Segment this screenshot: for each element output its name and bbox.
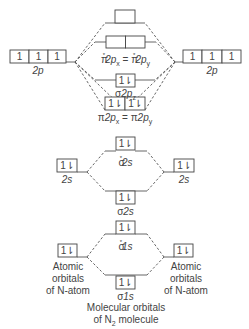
left-atomic-orbitals-caption: Atomic orbitals of N-atom — [46, 261, 90, 297]
electron-pair-arrows: 1⇂ — [119, 138, 133, 149]
electron-pair-arrows: 1⇂ — [119, 192, 133, 203]
molecular-orbitals-caption: Molecular orbitals of N2 molecule — [87, 302, 165, 329]
pi-star-2px-box — [106, 36, 126, 48]
sigma-1s-label: σ1s — [117, 291, 134, 302]
electron-pair-arrows: 1⇂ — [177, 160, 191, 171]
pi-star-2py-box — [126, 36, 146, 48]
sigma-star-2s-label: σ*2s — [118, 153, 132, 168]
sigma-star-1s-label: σ*1s — [118, 237, 132, 252]
electron-up-arrow: 1 — [17, 51, 23, 62]
electron-pair-arrows: 1⇂ — [60, 160, 74, 171]
electron-pair-arrows: 1⇂ — [119, 222, 133, 233]
sigma-star-2pz-box — [115, 10, 135, 23]
sigma-2s-label: σ2s — [117, 206, 134, 217]
sigma-2pz-label: σ2pz — [115, 88, 136, 103]
electron-up-arrow: 1 — [229, 51, 235, 62]
electron-pair-arrows: 1⇂ — [61, 245, 75, 256]
left-2s-label: 2s — [62, 174, 73, 185]
electron-pair-arrows: 1⇂ — [177, 245, 191, 256]
electron-up-arrow: 1 — [209, 51, 215, 62]
electron-pair-arrows: 1⇂ — [119, 75, 133, 86]
electron-up-arrow: 1 — [36, 51, 42, 62]
electron-pair-arrows: 1⇂ — [119, 277, 133, 288]
left-2p-label: 2p — [32, 65, 43, 76]
right-2s-label: 2s — [179, 174, 190, 185]
pi-2p-label: π2px = π2py — [98, 112, 152, 127]
electron-up-arrow: 1 — [54, 51, 60, 62]
pi-star-2p-label: π*2px = π*2py — [101, 50, 150, 69]
right-atomic-orbitals-caption: Atomic orbitals of N-atom — [164, 261, 208, 297]
electron-up-arrow: 1 — [190, 51, 196, 62]
right-2p-label: 2p — [206, 65, 217, 76]
